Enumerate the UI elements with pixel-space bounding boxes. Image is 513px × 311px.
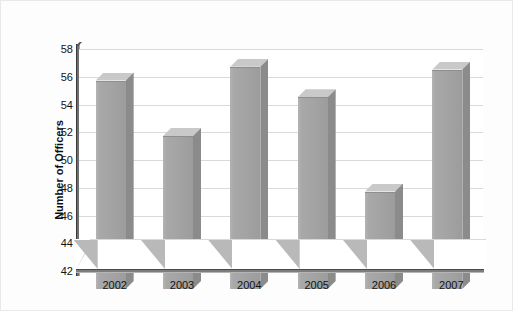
y-axis-tick-label: 48 (61, 182, 73, 194)
x-axis-tick-label: 2006 (372, 279, 396, 291)
gridline (79, 160, 483, 161)
y-axis-tick-label: 56 (61, 71, 73, 83)
floor-back-edge (90, 239, 486, 240)
x-axis-tick-labels: 200220032004200520062007 (1, 279, 513, 295)
y-axis-tick-label: 52 (61, 126, 73, 138)
y-axis-tick-label: 44 (61, 237, 73, 249)
y-axis-tick-label: 58 (61, 43, 73, 55)
y-axis-tick-label: 42 (61, 265, 73, 277)
x-axis-tick-label: 2007 (439, 279, 463, 291)
x-axis-tick-label: 2005 (304, 279, 328, 291)
y-axis-tick-label: 54 (61, 99, 73, 111)
gridline (79, 188, 483, 189)
plot-area (79, 49, 483, 271)
gridline (79, 49, 483, 50)
gridline (79, 105, 483, 106)
y-axis-tick-label: 50 (61, 154, 73, 166)
gridline (79, 77, 483, 78)
chart-floor (76, 239, 486, 275)
x-axis-tick-label: 2004 (237, 279, 261, 291)
gridline (79, 132, 483, 133)
y-axis-tick-labels: 424446485052545658 (45, 49, 73, 271)
x-axis-tick-label: 2002 (102, 279, 126, 291)
x-axis-line (76, 269, 484, 273)
x-axis-tick-label: 2003 (170, 279, 194, 291)
gridline (79, 216, 483, 217)
y-axis-title-container: Number of Officers (23, 49, 47, 271)
y-axis-tick-label: 46 (61, 210, 73, 222)
chart-figure: Number of Officers 424446485052545658 20… (0, 0, 513, 311)
